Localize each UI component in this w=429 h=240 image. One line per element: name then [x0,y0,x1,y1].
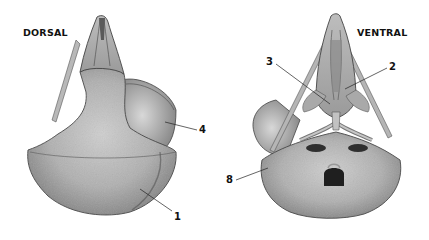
label-3: 3 [266,56,273,67]
ventral-title: VENTRAL [357,27,407,38]
ventral-skull [253,14,406,222]
label-8: 8 [226,174,233,185]
skull-figure: DORSAL VENTRAL 4 1 3 2 8 [0,0,429,240]
label-4: 4 [199,124,206,135]
dorsal-title: DORSAL [23,27,68,38]
dorsal-skull [26,16,178,218]
label-2: 2 [389,61,396,72]
label-1: 1 [174,211,181,222]
